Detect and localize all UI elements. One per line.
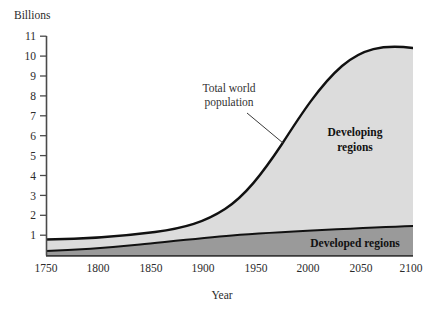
y-axis-tick-labels: 11 10 9 8 7 6 5 4 3 2 1: [25, 30, 37, 241]
x-tick-label: 2100: [400, 262, 423, 274]
x-axis-tick-labels: 1750 1800 1850 1900 1950 2000 2050 2100: [35, 262, 423, 274]
developed-regions-label: Developed regions: [310, 237, 400, 250]
total-world-population-annotation-line2: population: [204, 96, 253, 109]
developing-regions-label-line2: regions: [337, 141, 373, 154]
y-axis-ticks: [40, 36, 47, 235]
y-tick-label: 9: [30, 70, 36, 82]
y-tick-label: 4: [30, 170, 36, 182]
population-area-chart: Billions: [0, 0, 438, 315]
y-tick-label: 7: [30, 110, 36, 122]
annotation-leader-line: [247, 113, 283, 143]
y-tick-label: 1: [30, 229, 36, 241]
developed-regions-label-line1: Developed regions: [310, 237, 400, 250]
x-tick-label: 2000: [297, 262, 320, 274]
y-tick-label: 6: [30, 130, 36, 142]
y-tick-label: 2: [30, 209, 36, 221]
x-tick-label: 1900: [192, 262, 215, 274]
y-tick-label: 3: [30, 190, 36, 202]
x-tick-label: 1800: [87, 262, 110, 274]
y-tick-label: 8: [30, 90, 36, 102]
total-world-population-annotation: Total world population: [202, 82, 283, 143]
y-tick-label: 11: [25, 30, 36, 42]
x-axis-title: Year: [211, 289, 232, 301]
chart-page: Billions: [0, 0, 438, 315]
y-axis-title: Billions: [14, 9, 51, 21]
x-tick-label: 1750: [35, 262, 58, 274]
total-world-population-annotation-line1: Total world: [202, 82, 255, 94]
developing-regions-label-line1: Developing: [328, 126, 383, 139]
y-tick-label: 10: [25, 50, 37, 62]
x-tick-label: 1950: [245, 262, 268, 274]
x-tick-label: 1850: [140, 262, 163, 274]
y-tick-label: 5: [30, 150, 36, 162]
x-tick-label: 2050: [350, 262, 373, 274]
